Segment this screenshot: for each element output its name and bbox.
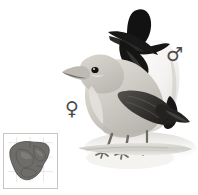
bird-identification-plate: ♀ ♂ bbox=[0, 0, 198, 195]
distribution-map bbox=[3, 133, 58, 189]
female-symbol: ♀ bbox=[65, 99, 79, 118]
male-symbol: ♂ bbox=[166, 45, 183, 64]
southern-africa-map bbox=[4, 134, 57, 188]
